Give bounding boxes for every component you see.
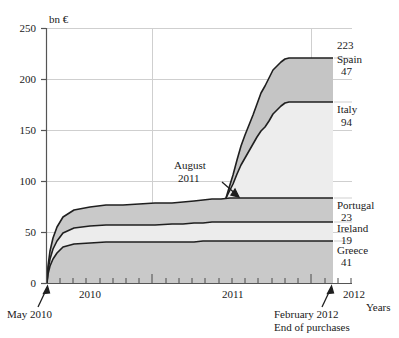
label-greece-name: Greece	[337, 245, 368, 256]
y-tick-150: 150	[6, 125, 36, 136]
y-tick-50: 50	[6, 227, 36, 238]
label-spain-value: 47	[341, 66, 352, 77]
x-year-2012: 2012	[343, 289, 365, 300]
x-year-2010: 2010	[79, 289, 101, 300]
total-value-label: 223	[337, 40, 354, 51]
area-greece	[47, 241, 333, 283]
y-tick-100: 100	[6, 176, 36, 187]
annotation-august-line2: 2011	[178, 173, 200, 184]
y-ticks	[41, 29, 46, 284]
label-portugal-name: Portugal	[337, 200, 374, 211]
annotation-may-2010: May 2010	[7, 309, 52, 320]
chart-figure: bn € 250 200 150 100 50 0 2010 2011 2012…	[0, 0, 399, 338]
annotation-feb-2012-line1: February 2012	[274, 309, 338, 320]
may-2010-arrow-head	[44, 286, 50, 294]
y-tick-0: 0	[6, 278, 36, 289]
annotation-august-line1: August	[174, 160, 206, 171]
annotation-feb-2012-line2: End of purchases	[274, 322, 350, 333]
label-italy-name: Italy	[337, 104, 357, 115]
x-axis-title: Years	[366, 302, 391, 313]
y-axis-unit-label: bn €	[49, 14, 68, 25]
label-italy-value: 94	[341, 117, 352, 128]
label-spain-name: Spain	[337, 54, 362, 65]
y-tick-200: 200	[6, 74, 36, 85]
y-tick-250: 250	[6, 23, 36, 34]
label-ireland-name: Ireland	[337, 223, 368, 234]
feb-2012-arrow-head	[328, 286, 334, 294]
x-year-2011: 2011	[222, 289, 244, 300]
label-greece-value: 41	[341, 257, 352, 268]
